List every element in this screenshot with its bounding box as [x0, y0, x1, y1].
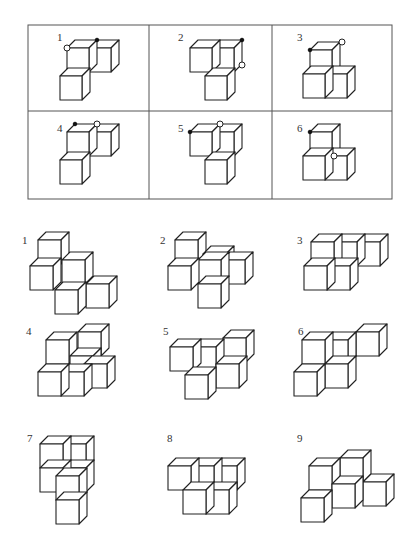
cube: [67, 40, 97, 72]
cube: [325, 356, 356, 388]
cube: [304, 258, 335, 290]
cube: [38, 364, 69, 396]
cube: [301, 490, 332, 522]
reference-label: 3: [297, 31, 303, 43]
cube: [60, 152, 90, 184]
cube: [55, 282, 86, 314]
filled-dot-marker: [308, 48, 312, 52]
cube-puzzle-diagram: 123456 123456789: [0, 0, 417, 547]
open-dot-marker: [94, 121, 100, 127]
cube: [216, 356, 247, 388]
cube: [190, 124, 220, 156]
option-7: 7: [27, 432, 94, 524]
cube: [332, 476, 363, 508]
cube: [67, 124, 97, 156]
answer-options: 123456789: [22, 232, 394, 524]
option-2: 2: [160, 232, 253, 308]
option-label: 7: [27, 432, 33, 444]
option-label: 2: [160, 234, 166, 246]
reference-label: 6: [297, 122, 303, 134]
option-8: 8: [167, 432, 245, 514]
cube: [170, 339, 201, 371]
open-dot-marker: [331, 153, 337, 159]
open-dot-marker: [217, 121, 223, 127]
open-dot-marker: [339, 39, 345, 45]
reference-cell-6: 6: [297, 122, 355, 180]
filled-dot-marker: [95, 38, 99, 42]
reference-label: 4: [57, 122, 63, 134]
open-dot-marker: [239, 62, 245, 68]
cube: [168, 258, 199, 290]
filled-dot-marker: [240, 38, 244, 42]
cube: [185, 367, 216, 399]
cube: [303, 148, 333, 180]
option-3: 3: [297, 234, 388, 290]
cube: [86, 276, 117, 308]
reference-cell-2: 2: [178, 31, 245, 100]
cube: [56, 492, 87, 524]
reference-cell-4: 4: [57, 121, 119, 184]
cube: [205, 68, 235, 100]
option-label: 4: [26, 325, 32, 337]
reference-cell-1: 1: [57, 31, 119, 100]
cube: [183, 482, 214, 514]
option-label: 9: [297, 432, 303, 444]
reference-figures: 123456: [57, 31, 355, 184]
cube: [198, 276, 229, 308]
open-dot-marker: [64, 45, 70, 51]
cube: [190, 40, 220, 72]
filled-dot-marker: [308, 130, 312, 134]
option-label: 3: [297, 234, 303, 246]
option-6: 6: [294, 324, 387, 396]
reference-label: 5: [178, 122, 184, 134]
cube: [62, 252, 93, 284]
cube: [302, 332, 333, 364]
option-4: 4: [26, 324, 115, 396]
filled-dot-marker: [188, 130, 192, 134]
reference-label: 1: [57, 31, 63, 43]
cube: [30, 258, 61, 290]
option-label: 5: [163, 325, 169, 337]
option-5: 5: [163, 325, 254, 399]
cube: [205, 152, 235, 184]
filled-dot-marker: [73, 122, 77, 126]
reference-label: 2: [178, 31, 184, 43]
option-label: 6: [298, 325, 304, 337]
reference-cell-3: 3: [297, 31, 355, 98]
option-1: 1: [22, 232, 117, 314]
reference-cell-5: 5: [178, 121, 242, 184]
cube: [60, 68, 90, 100]
cube: [356, 324, 387, 356]
cube: [294, 364, 325, 396]
cube: [303, 66, 333, 98]
cube: [363, 474, 394, 506]
option-9: 9: [297, 432, 394, 522]
option-label: 8: [167, 432, 173, 444]
option-label: 1: [22, 234, 28, 246]
